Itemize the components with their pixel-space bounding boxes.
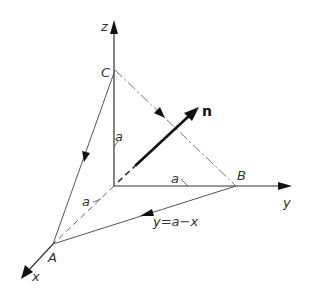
edge-ba-arrow-icon [140,209,154,216]
y-a-label: a [171,171,179,186]
y-axis [114,182,292,190]
z-axis-label: z [100,19,109,34]
coordinate-diagram: z y x C B A n a a a y=a−x [0,0,310,295]
z-axis [110,20,118,186]
z-axis-arrow-icon [110,20,118,34]
x-a-label: a [82,194,90,209]
x-axis-label: x [31,269,40,284]
normal-vector-n [118,107,199,182]
vector-n-label: n [202,103,212,119]
x-axis [21,186,114,279]
z-a-label: a [115,129,123,144]
y-a-tick [181,179,188,186]
y-axis-arrow-icon [278,182,292,190]
edge-ca [53,70,115,244]
line-equation-label: y=a−x [152,214,198,229]
point-b-label: B [237,168,246,183]
point-c-label: C [101,65,111,80]
edge-ba [53,186,236,244]
y-axis-label: y [282,195,291,210]
point-a-label: A [47,250,57,265]
